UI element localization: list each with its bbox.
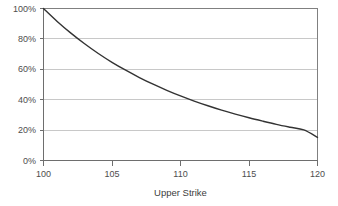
x-tick-label-120: 120 xyxy=(310,169,325,179)
y-tick-label-40: 40% xyxy=(18,95,36,105)
y-tick-label-0: 0% xyxy=(23,156,36,166)
y-tick-label-80: 80% xyxy=(18,34,36,44)
chart-container: 100% 80% 60% 40% 20% 0% 100 105 110 115 … xyxy=(0,0,338,206)
x-axis-title: Upper Strike xyxy=(154,187,207,198)
x-tick-label-100: 100 xyxy=(36,169,51,179)
x-tick-label-115: 115 xyxy=(242,169,256,179)
y-tick-label-20: 20% xyxy=(18,125,36,135)
y-tick-label-100: 100% xyxy=(13,4,36,14)
x-tick-label-105: 105 xyxy=(104,169,119,179)
line-chart: 100% 80% 60% 40% 20% 0% 100 105 110 115 … xyxy=(0,0,338,206)
y-tick-label-60: 60% xyxy=(18,64,36,74)
x-tick-label-110: 110 xyxy=(173,169,187,179)
